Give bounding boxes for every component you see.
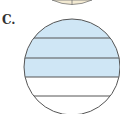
previous-figure-partial xyxy=(52,0,92,5)
shaded-strips xyxy=(20,15,120,77)
circle-strips xyxy=(20,15,120,114)
fraction-circle-diagram xyxy=(0,0,120,114)
